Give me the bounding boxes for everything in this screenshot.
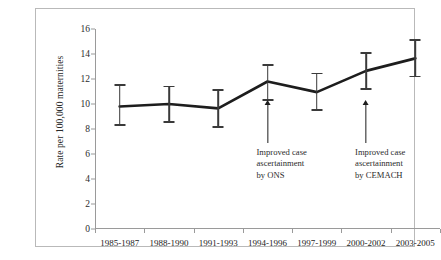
y-tick-label: 6 [85, 149, 90, 159]
x-tick-label: 1985-1987 [100, 238, 139, 248]
x-tick-mark [391, 229, 392, 233]
x-tick-label: 2003-2005 [396, 238, 435, 248]
y-tick-label: 4 [85, 174, 90, 184]
error-bar [168, 87, 170, 123]
error-bar [316, 73, 318, 110]
x-tick-label: 2000-2002 [347, 238, 386, 248]
x-tick-mark [243, 229, 244, 233]
annotation-text: Improved caseascertainmentby CEMACH [355, 147, 405, 181]
error-bar [365, 53, 367, 89]
y-tick-mark [91, 129, 95, 130]
error-bar-cap [410, 76, 421, 78]
error-bar-cap [361, 52, 372, 54]
y-tick-label: 10 [81, 99, 91, 109]
x-tick-mark [144, 229, 145, 233]
x-axis-line [95, 228, 440, 229]
error-bar-cap [410, 39, 421, 41]
annotation-text-line: by CEMACH [355, 170, 405, 181]
error-bar-cap [114, 124, 125, 126]
x-tick-mark [194, 229, 195, 233]
error-bar-cap [361, 88, 372, 90]
error-bar-cap [213, 89, 224, 91]
y-tick-mark [91, 154, 95, 155]
y-tick-label: 14 [81, 49, 91, 59]
error-bar [217, 90, 219, 127]
y-tick-mark [91, 29, 95, 30]
chart-frame: Rate per 100,000 maternities 02468101214… [35, 8, 415, 247]
annotation-text-line: ascertainment [257, 158, 307, 169]
y-tick-mark [91, 104, 95, 105]
annotation-text-line: by ONS [257, 170, 307, 181]
error-bar-cap [163, 86, 174, 88]
y-axis-line [95, 29, 96, 229]
annotation-text-line: Improved case [355, 147, 405, 158]
error-bar [267, 65, 269, 100]
annotation-text: Improved caseascertainmentby ONS [257, 147, 307, 181]
annotation-text-line: Improved case [257, 147, 307, 158]
y-tick-label: 0 [85, 224, 90, 234]
y-tick-label: 2 [85, 199, 90, 209]
error-bar [119, 85, 121, 125]
error-bar-cap [311, 109, 322, 111]
error-bar-cap [311, 73, 322, 75]
y-tick-mark [91, 54, 95, 55]
y-tick-mark [91, 179, 95, 180]
error-bar-cap [262, 64, 273, 66]
error-bar-cap [213, 126, 224, 128]
y-tick-label: 16 [81, 24, 91, 34]
x-tick-label: 1991-1993 [199, 238, 238, 248]
annotation-arrow-line [267, 105, 268, 143]
x-tick-label: 1988-1990 [149, 238, 188, 248]
error-bar [415, 40, 417, 76]
annotation-arrow-line [365, 105, 366, 143]
x-tick-label: 1994-1996 [248, 238, 287, 248]
y-tick-mark [91, 79, 95, 80]
x-tick-mark [341, 229, 342, 233]
error-bar-cap [114, 84, 125, 86]
y-axis-label: Rate per 100,000 maternities [55, 32, 65, 192]
error-bar-cap [163, 121, 174, 123]
x-tick-mark [95, 229, 96, 233]
annotation-text-line: ascertainment [355, 158, 405, 169]
y-tick-label: 12 [81, 74, 91, 84]
x-tick-label: 1997-1999 [297, 238, 336, 248]
y-tick-label: 8 [85, 124, 90, 134]
plot-area: 02468101214161985-19871988-19901991-1993… [95, 29, 440, 229]
x-tick-mark [292, 229, 293, 233]
y-tick-mark [91, 204, 95, 205]
